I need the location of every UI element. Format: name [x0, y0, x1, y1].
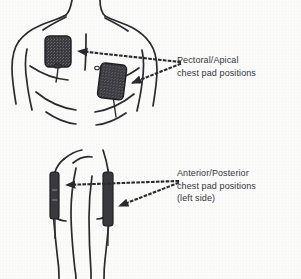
diagram-artwork	[0, 0, 301, 279]
pectoral-left-underline	[30, 66, 68, 80]
pectoral-apical-label-line1: Pectoral/Apical	[177, 54, 256, 67]
nipple-mark	[95, 66, 100, 70]
lateral-arm-back-inner-line	[89, 176, 92, 279]
shoulder-right-contour	[105, 16, 150, 43]
armpit-left-crease	[26, 49, 33, 110]
lateral-deltoid-curve	[73, 157, 92, 163]
lateral-shoulder-top-line	[64, 150, 82, 159]
posterior-pad-arrow	[119, 183, 178, 206]
lateral-shoulder-back-contour	[103, 150, 108, 170]
abdomen-left-curve	[46, 112, 76, 124]
anterior-posterior-label-line2: chest pad positions	[177, 180, 256, 193]
apical-pad	[97, 62, 127, 100]
anterior-torso-view	[12, 0, 157, 125]
lateral-torso-view	[53, 150, 111, 279]
pectoral-pad	[45, 36, 71, 68]
anterior-pad-arrow	[66, 181, 178, 185]
pectoral-apical-label: Pectoral/Apical chest pad positions	[177, 54, 256, 79]
anterior-pad	[50, 172, 59, 239]
neck-left-contour	[66, 0, 72, 15]
arm-left-outer-contour	[12, 41, 19, 104]
neck-right-contour	[100, 0, 105, 16]
lateral-shoulder-front-contour	[55, 159, 64, 172]
anterior-posterior-label: Anterior/Posterior chest pad positions (…	[177, 167, 256, 205]
anterior-posterior-label-line3: (left side)	[177, 192, 256, 205]
pectoral-pad-arrow	[78, 51, 180, 62]
ribcage-left-curve	[36, 92, 76, 110]
abdomen-right-curve	[96, 113, 126, 125]
pectoral-apical-label-line2: chest pad positions	[177, 67, 256, 80]
pectoral-pad-tab	[54, 64, 61, 68]
anterior-posterior-connector-group	[66, 181, 178, 206]
chest-pad-positions-figure: Pectoral/Apical chest pad positions Ante…	[0, 0, 301, 279]
anterior-posterior-label-line1: Anterior/Posterior	[177, 167, 256, 180]
pectoral-apical-connector-group	[78, 51, 180, 83]
